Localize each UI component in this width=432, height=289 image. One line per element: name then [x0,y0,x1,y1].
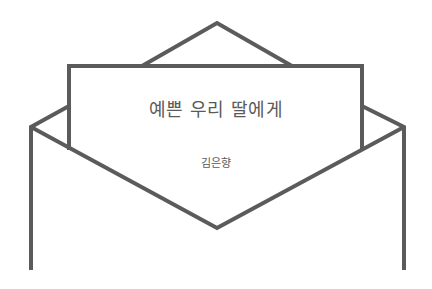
envelope-front-flap [31,127,404,228]
letter-title: 예쁜 우리 딸에게 [0,95,432,121]
letter-author: 김은향 [0,154,432,170]
envelope-top-flap [142,23,292,66]
envelope-illustration [0,0,432,289]
